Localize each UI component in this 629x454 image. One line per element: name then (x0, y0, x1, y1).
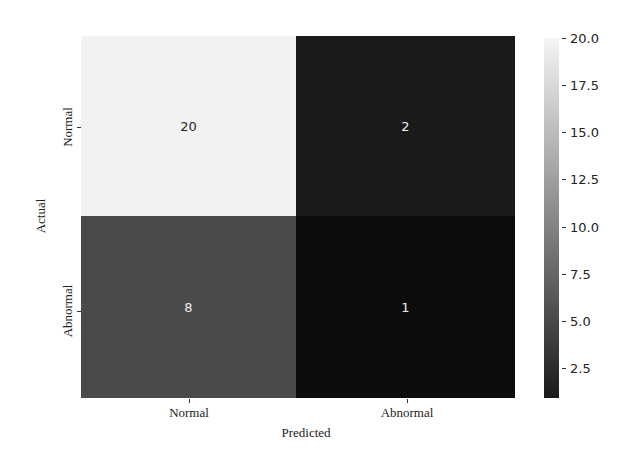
colorbar-label: 2.5 (570, 361, 591, 376)
colorbar-tick (562, 179, 566, 180)
colorbar (544, 38, 559, 398)
colorbar-tick (562, 368, 566, 369)
colorbar-tick (562, 227, 566, 228)
heatmap-plot-area: 20 2 8 1 (81, 36, 515, 398)
colorbar-tick (562, 38, 566, 39)
x-tick-label-normal: Normal (169, 405, 209, 421)
y-tick-label-abnormal: Abnormal (60, 276, 76, 346)
colorbar-label: 20.0 (570, 31, 599, 46)
colorbar-tick (562, 132, 566, 133)
colorbar-label: 15.0 (570, 125, 599, 140)
colorbar-label: 5.0 (570, 314, 591, 329)
x-axis-label: Predicted (281, 425, 330, 441)
colorbar-label: 12.5 (570, 172, 599, 187)
colorbar-tick (562, 321, 566, 322)
y-tick-mark-abnormal (77, 311, 81, 312)
x-tick-label-abnormal: Abnormal (381, 405, 434, 421)
y-axis-label: Actual (33, 191, 49, 241)
cell-value: 2 (401, 119, 409, 134)
x-tick-mark-abnormal (407, 399, 408, 403)
colorbar-tick (562, 274, 566, 275)
cell-actual-abnormal-predicted-normal: 8 (81, 216, 296, 398)
cell-value: 1 (401, 300, 409, 315)
cell-actual-abnormal-predicted-abnormal: 1 (296, 216, 515, 398)
y-tick-mark-normal (77, 127, 81, 128)
colorbar-label: 10.0 (570, 220, 599, 235)
cell-actual-normal-predicted-abnormal: 2 (296, 36, 515, 216)
cell-actual-normal-predicted-normal: 20 (81, 36, 296, 216)
colorbar-tick (562, 85, 566, 86)
y-tick-label-normal: Normal (60, 97, 76, 157)
cell-value: 8 (184, 300, 192, 315)
x-tick-mark-normal (189, 399, 190, 403)
colorbar-label: 17.5 (570, 78, 599, 93)
colorbar-label: 7.5 (570, 267, 591, 282)
cell-value: 20 (180, 119, 197, 134)
